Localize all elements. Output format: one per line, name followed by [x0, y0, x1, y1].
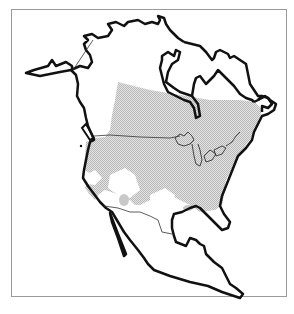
- island-dot: [80, 145, 82, 147]
- coastline-alaska: [71, 16, 184, 70]
- range-patch: [119, 194, 129, 206]
- north-america-map: [0, 0, 294, 314]
- coastline-alaska-south: [26, 60, 72, 76]
- range-shading: [84, 82, 262, 212]
- coastline-north-canada: [184, 42, 262, 96]
- coastline-baja: [110, 213, 126, 256]
- coastline-labrador: [192, 70, 254, 102]
